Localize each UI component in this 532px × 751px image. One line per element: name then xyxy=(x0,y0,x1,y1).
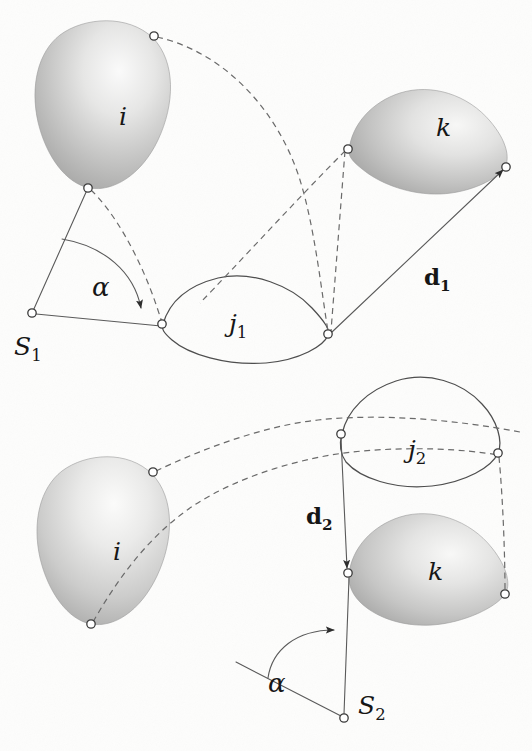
node-j2-left xyxy=(337,430,345,438)
node-s1 xyxy=(28,309,36,317)
label-d2-subscript: 2 xyxy=(322,516,333,534)
node-k2-left xyxy=(344,569,352,577)
node-j1-right xyxy=(324,330,332,338)
label-region-i-top: i xyxy=(119,102,127,131)
label-j2-subscript: 2 xyxy=(416,449,427,468)
label-s1-subscript: 1 xyxy=(31,346,42,365)
node-j1-left xyxy=(158,320,166,328)
label-angle-alpha-2: α xyxy=(268,668,286,698)
label-region-k-bottom: k xyxy=(428,557,443,586)
figure-root: i k j1 S1 α d1 xyxy=(0,0,532,751)
node-i2-bottom xyxy=(87,620,95,628)
node-i-bottom xyxy=(84,184,92,192)
label-s2-base: S xyxy=(358,691,375,720)
node-s2 xyxy=(340,714,348,722)
label-d1-base: d xyxy=(424,263,440,290)
label-d2-base: d xyxy=(306,502,322,529)
node-j2-right xyxy=(494,449,502,457)
node-i2-top xyxy=(149,468,157,476)
node-k2-right xyxy=(501,590,509,598)
geometry-diagram: i k j1 S1 α d1 xyxy=(0,0,532,751)
node-i-top xyxy=(150,32,158,40)
label-d1-subscript: 1 xyxy=(440,277,451,295)
label-region-i-bottom: i xyxy=(113,537,121,566)
label-j1-subscript: 1 xyxy=(237,323,248,342)
node-k-right xyxy=(502,163,510,171)
label-s1-base: S xyxy=(14,332,31,361)
label-s2-subscript: 2 xyxy=(375,705,386,724)
label-angle-alpha-1: α xyxy=(92,272,110,302)
label-region-k-top: k xyxy=(436,113,451,142)
node-k-left xyxy=(344,145,352,153)
